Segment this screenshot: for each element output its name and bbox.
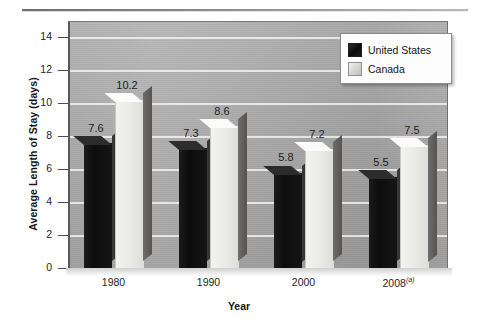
bar-value-label: 10.2 xyxy=(104,79,150,91)
bar-top-face xyxy=(294,142,333,151)
bar-front-face xyxy=(369,177,397,268)
bar-value-label: 7.6 xyxy=(73,122,119,134)
y-axis-tick xyxy=(58,202,68,203)
bar-top-face xyxy=(104,93,143,102)
bar-united-states-2008 xyxy=(369,177,397,268)
legend-label-united-states: United States xyxy=(368,44,431,56)
legend-item-united-states: United States xyxy=(348,40,451,59)
x-axis-tick-label: 2000 xyxy=(259,276,349,288)
bar-front-face xyxy=(179,148,207,268)
bar-canada-1990 xyxy=(210,126,238,268)
bar-side-face xyxy=(143,86,152,261)
x-axis-tick-label: 1980 xyxy=(69,276,159,288)
bar-value-label: 8.6 xyxy=(199,105,245,117)
y-axis-tick xyxy=(58,70,68,71)
bar-front-face xyxy=(84,143,112,268)
y-axis-tick xyxy=(58,37,68,38)
y-axis-tick-label: 10 xyxy=(0,96,52,108)
y-axis: 02468101214 xyxy=(0,0,68,290)
bar-value-label: 7.2 xyxy=(294,128,340,140)
bar-top-face xyxy=(263,166,302,175)
bar-value-label: 7.3 xyxy=(168,127,214,139)
y-axis-tick-label: 8 xyxy=(0,129,52,141)
y-axis-tick-label: 6 xyxy=(0,162,52,174)
y-axis-tick xyxy=(58,136,68,137)
legend-label-canada: Canada xyxy=(368,63,405,75)
y-axis-tick-label: 14 xyxy=(0,30,52,42)
legend-item-canada: Canada xyxy=(348,59,451,78)
bar-side-face xyxy=(428,130,437,261)
x-axis-tick-label: 1990 xyxy=(164,276,254,288)
y-axis-tick-label: 4 xyxy=(0,195,52,207)
bar-canada-2008 xyxy=(400,145,428,269)
bar-united-states-1980 xyxy=(84,143,112,268)
bar-canada-1980 xyxy=(115,100,143,268)
bar-value-label: 5.5 xyxy=(358,156,404,168)
black-swatch-icon xyxy=(348,43,362,57)
bar-united-states-2000 xyxy=(274,173,302,269)
y-axis-tick xyxy=(58,103,68,104)
bar-top-face xyxy=(389,138,428,147)
chart-legend: United States Canada xyxy=(340,33,452,84)
y-axis-tick-label: 0 xyxy=(0,261,52,273)
bar-front-face xyxy=(210,126,239,268)
bar-value-label: 5.8 xyxy=(263,151,309,163)
bar-canada-2000 xyxy=(305,149,333,268)
bar-front-face xyxy=(305,149,334,268)
y-axis-tick-label: 2 xyxy=(0,228,52,240)
y-axis-tick xyxy=(58,235,68,236)
bar-united-states-1990 xyxy=(179,148,207,268)
bar-side-face xyxy=(238,112,247,261)
bar-front-face xyxy=(400,145,429,269)
x-axis-tick-label: 2008(a) xyxy=(354,276,444,289)
bar-value-label: 7.5 xyxy=(389,124,435,136)
bar-side-face xyxy=(333,135,342,261)
bar-chart-figure: Average Length of Stay (days) 0246810121… xyxy=(0,0,478,328)
y-axis-tick xyxy=(58,169,68,170)
y-axis-tick-label: 12 xyxy=(0,63,52,75)
light-swatch-icon xyxy=(348,62,362,76)
bar-top-face xyxy=(168,141,207,150)
x-axis-title: Year xyxy=(0,300,478,312)
bar-top-face xyxy=(358,170,397,179)
bar-front-face xyxy=(274,173,302,269)
bar-front-face xyxy=(115,100,144,268)
